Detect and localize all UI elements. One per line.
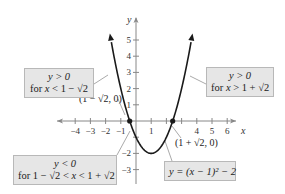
x-tick-label: −3 bbox=[86, 126, 96, 136]
curve-arrow-left-icon bbox=[108, 34, 114, 41]
callout-text: < 1 − √2 bbox=[49, 83, 88, 94]
y-tick-label: 5 bbox=[127, 35, 132, 45]
right-intercept-label: (1 + √2, 0) bbox=[175, 137, 218, 149]
x-intercept-point bbox=[170, 118, 175, 123]
leader-line bbox=[94, 75, 108, 84]
callout-equation: y = (x − 1)² − 2 bbox=[164, 161, 236, 181]
y-tick-label: 1 bbox=[127, 100, 132, 110]
callout-line: y > 0 bbox=[48, 71, 70, 82]
leader-line bbox=[190, 76, 206, 84]
curve-arrow-right-icon bbox=[188, 34, 194, 41]
y-tick-label: 2 bbox=[127, 84, 132, 94]
callout-text: > 1 + √2 bbox=[231, 82, 270, 93]
callout-y-negative: y < 0 for 1 − √2 < x < 1 + √2 bbox=[13, 155, 117, 185]
callout-y-positive-left: y > 0 for x < 1 − √2 bbox=[24, 68, 94, 98]
y-axis-label: y bbox=[126, 14, 132, 25]
x-tick-label: −2 bbox=[101, 126, 111, 136]
x-tick-label: 5 bbox=[210, 126, 215, 136]
x-tick-label: −1 bbox=[116, 126, 126, 136]
x-tick-label: −4 bbox=[70, 126, 80, 136]
x-axis-label: x bbox=[240, 125, 246, 136]
x-tick-label: 4 bbox=[195, 126, 200, 136]
callout-y-positive-right: y > 0 for x > 1 + √2 bbox=[206, 67, 274, 97]
equation-label: y = (x − 1)² − 2 bbox=[169, 166, 236, 177]
y-tick-label: −2 bbox=[121, 148, 131, 158]
callout-line: y < 0 bbox=[54, 158, 76, 169]
leader-line bbox=[165, 141, 172, 161]
y-tick-label: 4 bbox=[127, 51, 132, 61]
callout-text: < 1 + √2 bbox=[76, 170, 115, 181]
callout-text: for bbox=[30, 83, 45, 94]
x-intercept-point bbox=[127, 118, 132, 123]
callout-text: for bbox=[211, 82, 226, 93]
y-tick-label: −3 bbox=[121, 165, 131, 175]
callout-line: y > 0 bbox=[229, 70, 251, 81]
callout-text: for 1 − √2 < bbox=[18, 170, 71, 181]
callout-leaders bbox=[94, 75, 206, 161]
y-tick-label: 3 bbox=[127, 67, 132, 77]
x-tick-label: 6 bbox=[225, 126, 230, 136]
x-tick-label: 1 bbox=[149, 126, 154, 136]
